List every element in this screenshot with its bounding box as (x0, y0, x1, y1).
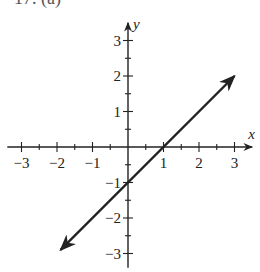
x-tick-label: 3 (231, 155, 239, 171)
y-tick-label: −3 (105, 246, 121, 262)
x-tick-label: −3 (14, 155, 30, 171)
y-axis-label: y (131, 16, 140, 32)
y-tick-label: 2 (114, 68, 122, 84)
x-tick-label: −1 (85, 155, 101, 171)
line-graph: xy−3−2−1123−3−2−1123 (0, 0, 260, 272)
y-tick-label: −1 (105, 175, 121, 191)
axes (7, 23, 252, 268)
y-tick-label: 3 (114, 33, 122, 49)
x-tick-label: 1 (160, 155, 168, 171)
y-tick-label: −2 (105, 210, 121, 226)
y-tick-label: 1 (114, 104, 122, 120)
x-tick-label: −2 (49, 155, 65, 171)
x-tick-label: 2 (195, 155, 203, 171)
tick-labels: xy−3−2−1123−3−2−1123 (14, 16, 256, 262)
x-axis-label: x (247, 126, 255, 142)
